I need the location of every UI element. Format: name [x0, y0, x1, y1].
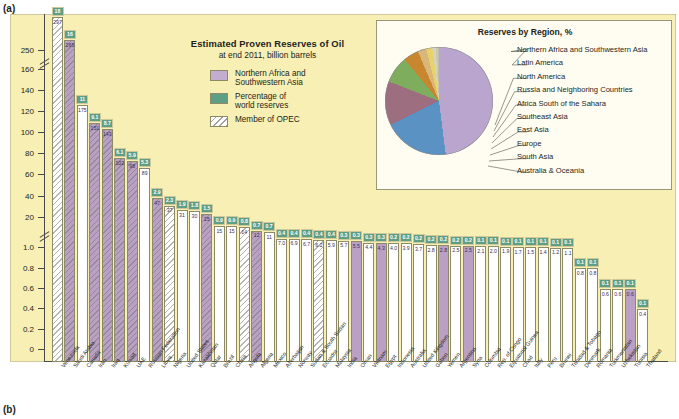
- bar-value-label: 4.0: [388, 246, 399, 251]
- bar-value-label: 0.4: [637, 312, 648, 317]
- bar: [301, 239, 312, 362]
- bar: [189, 211, 200, 362]
- bar-value-label: 2.0: [488, 249, 499, 254]
- bar: [313, 240, 324, 362]
- bar-value-label: 2.5: [463, 248, 474, 253]
- bar-value-label: 30: [189, 214, 200, 219]
- bar-value-label: 12: [251, 233, 262, 238]
- y-axis-label: 0.6: [0, 284, 34, 293]
- bar-percent-badge: 0.3: [375, 233, 387, 242]
- bar-percent-badge: 1.8: [188, 201, 200, 210]
- bar: [413, 244, 424, 362]
- legend-label-nafsa: Northern Africa and Southwestern Asia: [235, 69, 306, 88]
- bar-value-label: 102: [114, 161, 125, 166]
- bar-percent-badge: 1.9: [176, 200, 188, 209]
- bar-percent-badge: 0.3: [363, 233, 375, 242]
- bar-percent-badge: 0.2: [450, 236, 462, 245]
- bar-percent-badge: 0.3: [338, 231, 350, 240]
- panel-label-a: (a): [3, 3, 15, 14]
- bar: [64, 40, 75, 362]
- panel-label-b: (b): [3, 404, 16, 415]
- pie-inset-panel: Reserves by Region, % Northern Africa an…: [376, 20, 672, 190]
- bar: [538, 247, 549, 362]
- legend-label-nafsa-line2: Southwestern Asia: [235, 78, 303, 87]
- y-axis-label: 0: [0, 345, 34, 354]
- bar-value-label: 2.1: [475, 249, 486, 254]
- bar-column: 1519.1: [89, 123, 100, 362]
- bar-value-label: 6.9: [289, 241, 300, 246]
- y-axis-label: 80: [0, 149, 34, 158]
- bar-value-label: 143: [102, 132, 113, 137]
- bar-value-label: 14: [239, 230, 250, 235]
- bar-percent-badge: 0.1: [612, 279, 624, 288]
- legend-label-percentage: Percentage of world reserves: [235, 92, 288, 111]
- bar-percent-badge: 0.1: [550, 238, 562, 247]
- bar-value-label: 0.8: [587, 271, 598, 276]
- bar-column: 6.70.4: [301, 239, 312, 362]
- bar-column: 2.50.2: [450, 246, 461, 362]
- bar-percent-badge: 0.2: [425, 235, 437, 244]
- bar-column: 4.30.3: [376, 243, 387, 362]
- bar-percent-badge: 11: [76, 95, 88, 104]
- y-axis-label: 0.2: [0, 325, 34, 334]
- bar-value-label: 1.5: [525, 250, 536, 255]
- bar-value-label: 11: [264, 235, 275, 240]
- bar-value-label: 3.9: [401, 246, 412, 251]
- bar-percent-badge: 0.1: [512, 237, 524, 246]
- bar-value-label: 0.6: [600, 292, 611, 297]
- bar: [127, 161, 138, 362]
- bar-column: 1.20.1: [550, 248, 561, 362]
- bar-column: 985.9: [127, 161, 138, 362]
- bar-value-label: 7.0: [276, 241, 287, 246]
- bar-column: 5.70.3: [338, 241, 349, 362]
- bar-percent-badge: 0.9: [213, 216, 225, 225]
- y-axis-label: 140: [0, 86, 34, 95]
- bar-percent-badge: 0.3: [350, 231, 362, 240]
- y-axis-label: 160: [0, 65, 34, 74]
- pie-legend-item: Russia and Neighboring Countries: [517, 83, 671, 96]
- y-axis-label: 1.0: [0, 243, 34, 252]
- pie-legend-item: South Asia: [517, 150, 671, 163]
- bar-value-label: 6.2: [313, 243, 324, 248]
- bar: [139, 168, 150, 362]
- bar-value-label: 1.9: [500, 249, 511, 254]
- bar-column: 1.90.1: [500, 247, 511, 362]
- bar-percent-badge: 5.9: [126, 151, 138, 160]
- bar-value-label: 1.1: [562, 251, 573, 256]
- bar-column: 6.20.4: [313, 240, 324, 362]
- bar-percent-badge: 0.4: [313, 230, 325, 239]
- bar-percent-badge: 0.1: [587, 258, 599, 267]
- bar-value-label: 25: [201, 217, 212, 222]
- pie-legend-item: Northern Africa and Southwestern Asia: [517, 43, 671, 56]
- bar: [52, 17, 63, 362]
- y-axis-label: 100: [0, 128, 34, 137]
- bar: [388, 243, 399, 362]
- bar-percent-badge: 0.1: [487, 236, 499, 245]
- bar-percent-badge: 0.2: [388, 233, 400, 242]
- legend-label-pct-line2: world reserves: [235, 101, 288, 110]
- bar-percent-badge: 0.1: [537, 237, 549, 246]
- bar-percent-badge: 0.4: [301, 229, 313, 238]
- y-axis-label: 250: [0, 46, 34, 55]
- bar: [500, 247, 511, 362]
- bar-column: 110.7: [264, 232, 275, 362]
- bar-value-label: 0.8: [575, 271, 586, 276]
- bar-percent-badge: 0.9: [226, 216, 238, 225]
- bar-percent-badge: 0.4: [288, 229, 300, 238]
- legend-swatch-purple-icon: [210, 70, 228, 81]
- pie-legend-item: North America: [517, 70, 671, 83]
- y-axis-line: [44, 14, 45, 362]
- y-axis-label: 120: [0, 107, 34, 116]
- y-axis-label: 40: [0, 192, 34, 201]
- bar-percent-badge: 0.7: [263, 222, 275, 231]
- bar-percent-badge: 5.3: [139, 158, 151, 167]
- legend-item-nafsa: Northern Africa and Southwestern Asia: [210, 69, 355, 88]
- bar-value-label: 3.7: [413, 247, 424, 252]
- bar-column: 1.40.1: [538, 247, 549, 362]
- y-axis-label: 20: [0, 213, 34, 222]
- bar-percent-badge: 0.1: [525, 237, 537, 246]
- bar-percent-badge: 0.1: [624, 279, 636, 288]
- pie-legend-item: Southeast Asia: [517, 110, 671, 123]
- bar: [450, 246, 461, 362]
- bar-column: 301.8: [189, 211, 200, 362]
